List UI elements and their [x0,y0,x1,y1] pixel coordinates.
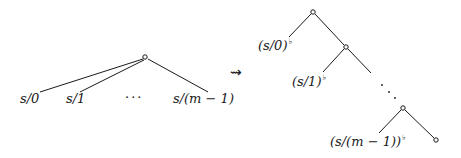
flat-symbol: ♭ [288,37,292,46]
left-root-node [143,55,147,59]
diag-dot [388,91,390,93]
flat-label-s0: (s/0)♭ [258,38,292,52]
right-node-3 [401,106,405,110]
edge-right-sm1 [379,110,401,133]
right-root-node [311,10,315,14]
flat-label-s0-base: (s/0) [258,38,287,53]
flat-label-sm1: (s/(m − 1))♭ [330,134,406,148]
edge-right-s1 [323,49,344,72]
leaf-label-s0: s/0 [20,92,39,105]
right-leaf-node [434,138,438,142]
diag-dot [394,97,396,99]
leadsto-arrow-icon: ⇝ [230,64,242,80]
right-node-2 [344,45,348,49]
diagram-canvas: s/0 s/1 ··· s/(m − 1) ⇝ (s/0)♭ (s/1)♭ (s… [0,0,461,158]
flat-symbol: ♭ [322,73,326,82]
leaf-label-s1: s/1 [66,92,85,105]
edge-left-sm1 [148,59,208,92]
edge-right-leaf [405,110,434,138]
ellipsis: ··· [125,90,143,105]
edge-right-s0 [289,14,311,37]
flat-label-s1-base: (s/1) [292,74,321,89]
leaf-label-sm1: s/(m − 1) [173,92,234,105]
edge-right-down [348,49,371,73]
edge-left-s0 [40,59,143,92]
flat-label-s1: (s/1)♭ [292,74,326,88]
flat-label-sm1-base: (s/(m − 1)) [330,134,401,149]
diag-dot [381,84,383,86]
edge-right-node2 [315,14,344,45]
flat-symbol: ♭ [402,133,406,142]
